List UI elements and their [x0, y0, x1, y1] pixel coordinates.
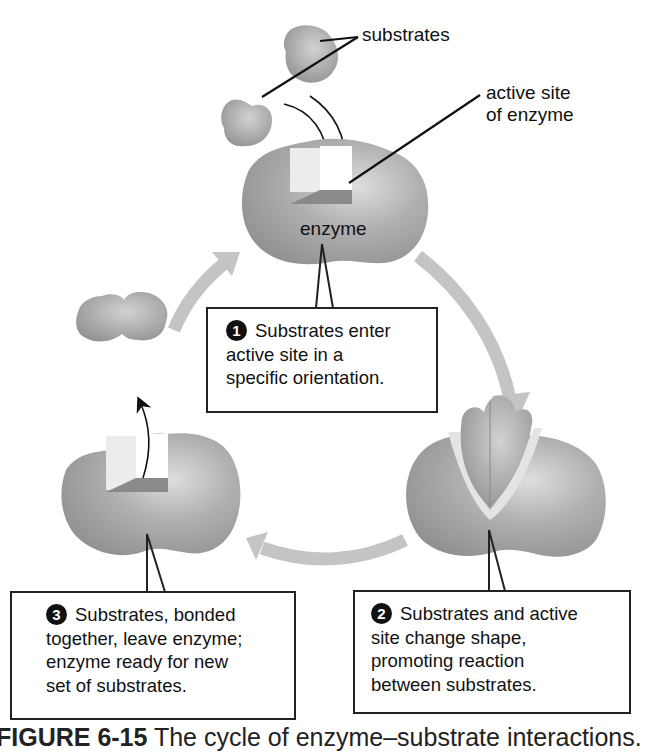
step-2-number-icon: 2	[371, 603, 392, 624]
substrate-top-small	[221, 99, 272, 146]
step-1-line-1: 1Substrates enter	[226, 319, 424, 343]
step-1-line-2: active site in a	[226, 343, 424, 367]
step-1-callout: 1Substrates enter active site in a speci…	[206, 307, 438, 413]
step-1-number-icon: 1	[226, 320, 247, 341]
step-3-callout: 3Substrates, bonded together, leave enzy…	[10, 591, 296, 720]
released-product	[76, 292, 167, 341]
substrates-label: substrates	[362, 24, 450, 46]
figure-title: The cycle of enzyme–substrate interactio…	[154, 723, 642, 751]
step-2-line-4: between substrates.	[371, 673, 617, 697]
figure-id: FIGURE 6-15	[0, 723, 147, 751]
step-2-line-2: site change shape,	[371, 626, 617, 650]
enzyme-left	[61, 433, 240, 555]
enzyme-label: enzyme	[300, 218, 367, 240]
step-2-line-3: promoting reaction	[371, 649, 617, 673]
active-site-label-line2: of enzyme	[486, 104, 574, 126]
step-1-line-3: specific orientation.	[226, 366, 424, 390]
step-3-line-4: set of substrates.	[46, 674, 282, 698]
enzyme-right	[406, 396, 606, 557]
step-3-number-icon: 3	[46, 604, 67, 625]
step-2-callout: 2Substrates and active site change shape…	[353, 590, 631, 714]
active-site-label-line1: active site	[486, 82, 570, 104]
cycle-arrow-2-to-3	[246, 532, 405, 560]
figure-caption: FIGURE 6-15 The cycle of enzyme–substrat…	[0, 722, 642, 752]
step-3-line-3: enzyme ready for new	[46, 650, 282, 674]
step-2-line-1: 2Substrates and active	[371, 602, 617, 626]
step-3-line-2: together, leave enzyme;	[46, 627, 282, 651]
enzyme-top	[242, 139, 428, 265]
step-3-line-1: 3Substrates, bonded	[46, 603, 282, 627]
